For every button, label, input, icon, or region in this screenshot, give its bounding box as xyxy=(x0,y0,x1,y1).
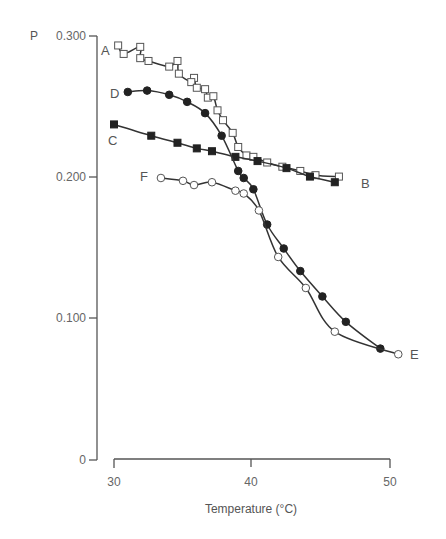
data-point xyxy=(240,190,248,198)
series-layer xyxy=(111,42,403,358)
data-point xyxy=(179,177,187,185)
data-point xyxy=(124,88,132,96)
data-point xyxy=(120,50,127,57)
chart-plot: 0.300 0.200 0.100 0 P 30 40 50 Temperatu… xyxy=(0,0,446,539)
data-point xyxy=(210,93,217,100)
data-point xyxy=(302,284,310,292)
data-point xyxy=(297,267,305,275)
data-point xyxy=(208,148,215,155)
data-point xyxy=(250,185,258,193)
series-3 xyxy=(124,87,384,353)
y-tick-0.100: 0.100 xyxy=(56,311,86,325)
data-point xyxy=(115,42,122,49)
series-1 xyxy=(115,42,343,180)
y-axis: 0.300 0.200 0.100 0 P xyxy=(30,29,97,467)
data-point xyxy=(137,43,144,50)
series-line xyxy=(118,45,339,176)
data-point xyxy=(143,87,151,95)
data-point xyxy=(232,187,240,195)
data-point xyxy=(208,178,216,186)
curve-label-d: D xyxy=(110,86,119,101)
data-point xyxy=(190,181,198,189)
data-point xyxy=(229,129,236,136)
y-axis-title: P xyxy=(30,29,38,43)
data-point xyxy=(342,318,350,326)
data-point xyxy=(193,145,200,152)
data-point xyxy=(148,132,155,139)
y-tick-0: 0 xyxy=(79,453,86,467)
curve-label-c: C xyxy=(108,133,117,148)
data-point xyxy=(220,117,227,124)
y-tick-0.200: 0.200 xyxy=(56,170,86,184)
data-point xyxy=(183,98,191,106)
data-point xyxy=(175,70,182,77)
data-point xyxy=(331,328,339,336)
data-point xyxy=(174,57,181,64)
data-point xyxy=(165,91,173,99)
data-point xyxy=(145,57,152,64)
data-point xyxy=(280,245,288,253)
data-point xyxy=(274,253,282,261)
series-line xyxy=(161,178,398,354)
data-point xyxy=(331,179,338,186)
data-point xyxy=(174,139,181,146)
x-axis-title: Temperature (°C) xyxy=(205,502,297,516)
curve-label-b: B xyxy=(361,176,370,191)
data-point xyxy=(166,63,173,70)
data-point xyxy=(214,107,221,114)
curve-label-a: A xyxy=(101,43,110,58)
curve-label-e: E xyxy=(410,347,419,362)
data-point xyxy=(201,109,209,117)
data-point xyxy=(240,174,248,182)
data-point xyxy=(319,293,327,301)
x-tick-50: 50 xyxy=(383,475,397,489)
data-point xyxy=(157,174,165,182)
y-tick-0.300: 0.300 xyxy=(56,29,86,43)
x-tick-30: 30 xyxy=(107,475,121,489)
data-point xyxy=(306,173,313,180)
data-point xyxy=(254,158,261,165)
data-point xyxy=(394,350,402,358)
curve-label-f: F xyxy=(140,169,148,184)
data-point xyxy=(255,207,263,215)
series-line xyxy=(128,90,381,348)
data-point xyxy=(234,167,242,175)
data-point xyxy=(202,86,209,93)
data-point xyxy=(111,121,118,128)
series-4 xyxy=(157,174,402,358)
data-point xyxy=(235,143,242,150)
x-axis: 30 40 50 Temperature (°C) xyxy=(107,459,397,516)
data-point xyxy=(283,165,290,172)
data-point xyxy=(193,84,200,91)
data-point xyxy=(218,132,226,140)
data-point xyxy=(137,55,144,62)
x-tick-40: 40 xyxy=(244,475,258,489)
